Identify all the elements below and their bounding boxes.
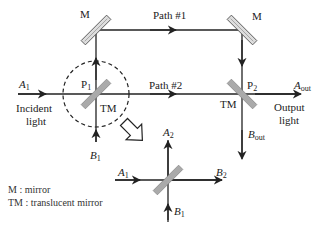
- label-incident: Incident: [16, 102, 52, 114]
- label-Bout: Bout: [248, 128, 265, 144]
- label-P2: P2: [247, 79, 257, 95]
- label-mirror-top-left: M: [80, 8, 90, 20]
- label-inset-A1: A1: [118, 166, 129, 182]
- label-mirror-top-right: M: [252, 10, 262, 22]
- label-inset-A2: A2: [163, 126, 174, 142]
- label-A1: A1: [19, 78, 30, 94]
- label-TM-right: TM: [220, 98, 237, 110]
- label-inset-B2: B2: [216, 166, 227, 182]
- legend-item-translucent-mirror: TM : translucent mirror: [8, 196, 103, 209]
- label-B1: B1: [90, 149, 101, 165]
- label-incident-light: light: [26, 115, 46, 127]
- label-output-light: light: [279, 114, 299, 126]
- legend: M : mirror TM : translucent mirror: [8, 183, 103, 209]
- label-TM-left: TM: [100, 102, 117, 114]
- label-output: Output: [274, 101, 305, 113]
- legend-item-mirror: M : mirror: [8, 183, 103, 196]
- label-inset-B1: B1: [174, 205, 185, 221]
- label-path1: Path #1: [153, 9, 186, 21]
- label-path2: Path #2: [149, 79, 182, 91]
- zoom-arrow-icon: [116, 114, 150, 148]
- label-Aout: Aout: [294, 79, 311, 95]
- label-P1: P1: [81, 78, 91, 94]
